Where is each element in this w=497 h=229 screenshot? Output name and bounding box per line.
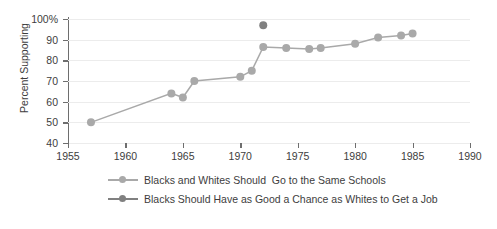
x-tick-label: 1980 [343, 150, 366, 162]
y-tick-label: 50 [6, 116, 58, 128]
data-point[interactable] [259, 43, 267, 51]
legend-label-job: Blacks Should Have as Good a Chance as W… [144, 193, 438, 205]
x-tick [413, 143, 414, 148]
x-tick-label: 1990 [458, 150, 481, 162]
data-point[interactable] [167, 89, 175, 97]
y-tick-label: 40 [6, 137, 58, 149]
x-tick [355, 143, 356, 148]
y-tick-label: 70 [6, 75, 58, 87]
data-point[interactable] [236, 73, 244, 81]
data-point[interactable] [282, 44, 290, 52]
plot-area: 405060708090100% 19551960196519701975198… [68, 19, 470, 143]
data-point[interactable] [317, 44, 325, 52]
x-tick-label: 1985 [401, 150, 424, 162]
data-point[interactable] [179, 94, 187, 102]
data-point[interactable] [305, 45, 313, 53]
x-tick-label: 1970 [229, 150, 252, 162]
x-tick [125, 143, 126, 148]
data-point[interactable] [87, 118, 95, 126]
data-series-layer [68, 19, 470, 143]
data-point[interactable] [397, 32, 405, 40]
x-tick-label: 1975 [286, 150, 309, 162]
legend-label-schools: Blacks and Whites Should Go to the Same … [144, 174, 386, 186]
legend-marker-schools [108, 175, 138, 185]
x-tick-label: 1965 [171, 150, 194, 162]
x-tick [298, 143, 299, 148]
series-line-0 [91, 33, 413, 122]
chart-legend: Blacks and Whites Should Go to the Same … [108, 170, 488, 208]
y-tick-label: 80 [6, 54, 58, 66]
legend-item-job[interactable]: Blacks Should Have as Good a Chance as W… [108, 189, 488, 208]
x-tick-label: 1955 [56, 150, 79, 162]
gridline [68, 143, 470, 144]
data-point[interactable] [190, 77, 198, 85]
data-point[interactable] [351, 40, 359, 48]
legend-marker-job [108, 194, 138, 204]
data-point[interactable] [374, 34, 382, 42]
x-tick [240, 143, 241, 148]
data-point[interactable] [409, 29, 417, 37]
y-tick-label: 100% [6, 13, 58, 25]
chart-container: Percent Supporting 405060708090100% 1955… [0, 0, 497, 229]
y-tick-label: 60 [6, 96, 58, 108]
legend-item-schools[interactable]: Blacks and Whites Should Go to the Same … [108, 170, 488, 189]
x-tick [470, 143, 471, 148]
x-tick-label: 1960 [114, 150, 137, 162]
y-tick-label: 90 [6, 34, 58, 46]
x-tick [68, 143, 69, 148]
data-point[interactable] [248, 67, 256, 75]
x-tick [183, 143, 184, 148]
data-point[interactable] [259, 21, 267, 29]
